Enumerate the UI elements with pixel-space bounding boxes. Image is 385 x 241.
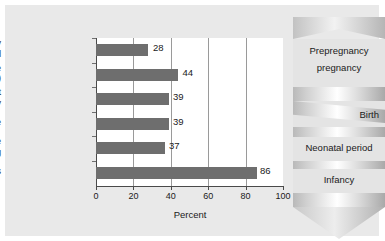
bar-value-label: 28 [153, 42, 164, 53]
x-tick [246, 186, 247, 190]
bar-row: Measles 86 [5, 161, 295, 186]
banner-segment-label: Prepregnancy pregnancy [293, 45, 385, 74]
lifecycle-arrow-banner: Prepregnancy pregnancy Birth Neonatal pe… [293, 17, 385, 232]
bar-value-label: 39 [173, 116, 184, 127]
x-tick [171, 186, 172, 190]
bar-exclusive-breastfeeding [96, 142, 165, 154]
x-tick [283, 186, 284, 190]
bar-row: Antenatal care (4+visits) 44 [5, 63, 295, 88]
banner-divider-band [293, 87, 385, 101]
bar-value-label: 86 [260, 165, 271, 176]
banner-divider-band [293, 193, 385, 207]
banner-top-notch [293, 17, 385, 39]
banner-divider-band [293, 127, 385, 137]
bar-row: Exclusive breastfeeding 37 [5, 136, 295, 161]
bar-value-label: 44 [183, 67, 194, 78]
x-tick [96, 186, 97, 190]
x-tick [133, 186, 134, 190]
x-tick-label: 20 [113, 191, 153, 201]
bar-row: Skilled attendant at delivery 39 [5, 87, 295, 112]
bar-chart: Demand for family planning satisfied 28 … [5, 5, 295, 236]
x-tick [208, 186, 209, 190]
bar-row: Postnatal care 39 [5, 112, 295, 137]
banner-segment-label: Infancy [293, 174, 385, 186]
chart-card: Demand for family planning satisfied 28 … [5, 5, 379, 236]
bar-demand-for-family-planning-satisfied [96, 44, 148, 56]
category-label: Demand for family planning satisfied [0, 38, 1, 59]
x-tick-label: 80 [226, 191, 266, 201]
category-label: Antenatal care (4+visits) [0, 63, 1, 84]
banner-divider-band [293, 161, 385, 169]
bar-postnatal-care [96, 118, 169, 130]
bar-measles [96, 167, 257, 179]
bar-skilled-attendant-at-delivery [96, 93, 169, 105]
x-tick-label: 40 [151, 191, 191, 201]
category-label: Exclusive breastfeeding [0, 136, 1, 157]
banner-bottom-arrow [293, 207, 385, 239]
banner-segment-label: Neonatal period [293, 142, 385, 154]
bar-value-label: 37 [169, 140, 180, 151]
category-label: Measles [0, 161, 1, 177]
category-label: Postnatal care [0, 112, 1, 128]
category-label: Skilled attendant at delivery [0, 87, 1, 108]
x-tick-label: 0 [76, 191, 116, 201]
x-axis-label: Percent [125, 209, 255, 220]
banner-segment-label: Birth [293, 109, 385, 121]
bar-value-label: 39 [173, 91, 184, 102]
bar-antenatal-care-4-visits [96, 69, 178, 81]
bar-row: Demand for family planning satisfied 28 [5, 38, 295, 63]
x-axis-line [96, 186, 283, 187]
x-tick-label: 60 [188, 191, 228, 201]
